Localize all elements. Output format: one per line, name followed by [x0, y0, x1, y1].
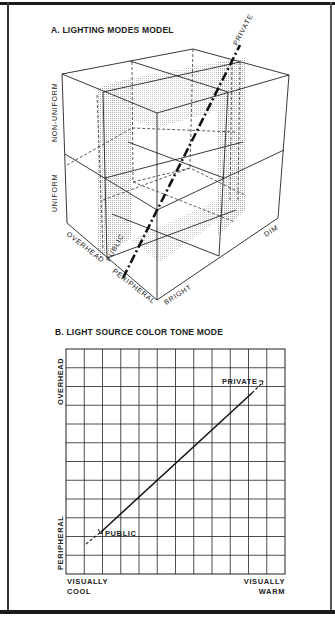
y-label-overhead: OVERHEAD [56, 358, 65, 405]
trend-line [101, 393, 252, 532]
trend-dashed-low [86, 532, 101, 544]
y-label-peripheral: PERIPHERAL [56, 516, 65, 570]
x-label-visually-warm-1: VISUALLY [244, 577, 285, 586]
x-label-visually-cool-1: VISUALLY [67, 577, 108, 586]
x-label-visually-cool-2: COOL [67, 587, 91, 596]
label-private-chart: PRIVATE [222, 377, 258, 386]
color-tone-grid-chart: PUBLIC PRIVATE OVERHEAD PERIPHERAL VISUA… [0, 0, 335, 628]
label-public-chart: PUBLIC [105, 529, 137, 538]
x-label-visually-warm-2: WARM [259, 587, 285, 596]
